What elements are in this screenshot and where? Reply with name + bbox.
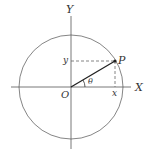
angle-label: θ bbox=[88, 77, 93, 86]
x-projection-label: x bbox=[112, 88, 117, 98]
radius-line bbox=[71, 61, 115, 87]
y-axis-label: Y bbox=[66, 3, 75, 16]
point-p-dot bbox=[113, 59, 116, 62]
y-projection-label: y bbox=[62, 55, 69, 65]
angle-arc bbox=[83, 80, 85, 87]
unit-circle-diagram: Y X O P θ x y bbox=[0, 0, 150, 156]
origin-label: O bbox=[61, 89, 69, 100]
x-axis-label: X bbox=[134, 81, 144, 94]
point-label: P bbox=[117, 54, 126, 67]
